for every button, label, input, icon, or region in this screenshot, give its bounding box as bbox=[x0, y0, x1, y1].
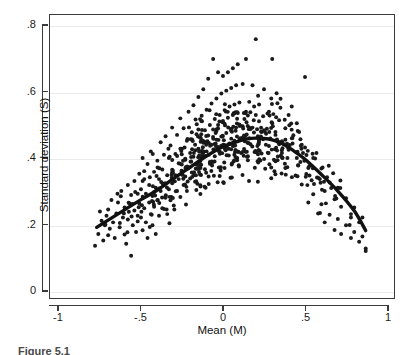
x-tick-label: -.5 bbox=[126, 312, 156, 323]
fitted-curve bbox=[97, 138, 366, 230]
y-tick-label: 0 bbox=[10, 285, 36, 296]
figure-root: .8.6.4.20 -1-.50.51 Standard deviation (… bbox=[0, 0, 416, 355]
y-tick-label: .8 bbox=[10, 19, 36, 30]
x-axis-title: Mean (M) bbox=[49, 324, 395, 336]
figure-caption: Figure 5.1 bbox=[18, 345, 70, 355]
y-tick-label: .4 bbox=[10, 152, 36, 163]
y-axis-title: Standard deviation (S) bbox=[38, 25, 50, 285]
x-axis-line bbox=[49, 305, 389, 306]
y-tick-label: .2 bbox=[10, 219, 36, 230]
x-tick-label: 1 bbox=[373, 312, 403, 323]
plot-area bbox=[49, 14, 395, 299]
y-tick-mark bbox=[42, 290, 48, 292]
x-tick-label: 0 bbox=[208, 312, 238, 323]
x-tick-label: .5 bbox=[291, 312, 321, 323]
x-tick-label: -1 bbox=[43, 312, 73, 323]
y-tick-label: .6 bbox=[10, 86, 36, 97]
fitted-curve-layer bbox=[50, 15, 394, 298]
